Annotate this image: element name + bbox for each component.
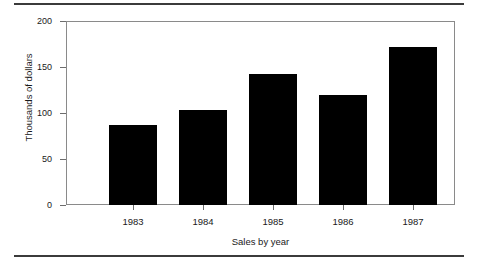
y-tick-mark [60,159,66,160]
top-divider-rule [14,3,464,5]
x-axis-title: Sales by year [66,236,455,247]
x-tick-mark [273,205,274,210]
bar-1987 [389,47,437,205]
y-tick-mark [60,67,66,68]
x-tick-mark [133,205,134,210]
x-tick-label-1984: 1984 [173,216,233,227]
x-tick-mark [203,205,204,210]
y-tick-label: 0 [14,201,52,210]
bottom-divider-rule [14,255,464,257]
bar-1984 [179,110,227,205]
bar-1986 [319,95,367,205]
x-tick-mark [343,205,344,210]
x-tick-label-1985: 1985 [243,216,303,227]
bars-layer [66,21,455,205]
y-axis-title: Thousands of dollars [23,8,34,188]
bar-1983 [109,125,157,205]
x-tick-label-1986: 1986 [313,216,373,227]
x-tick-label-1987: 1987 [383,216,443,227]
y-tick-mark [60,113,66,114]
y-tick-mark [60,21,66,22]
bar-1985 [249,74,297,205]
y-tick-mark [60,205,66,206]
x-tick-mark [413,205,414,210]
bar-chart-figure: 0 50 100 150 200 1983 1984 1985 1986 198… [0,0,477,267]
x-tick-label-1983: 1983 [103,216,163,227]
